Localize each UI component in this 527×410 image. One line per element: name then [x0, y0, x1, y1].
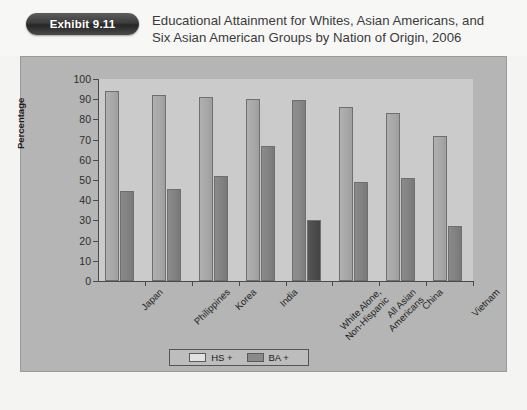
y-axis-tick-label: 70 — [45, 134, 91, 146]
bar-ba — [167, 189, 181, 281]
bar-ba — [354, 182, 368, 281]
y-axis-tick-label: 30 — [45, 214, 91, 226]
x-axis-tick — [145, 281, 146, 286]
x-axis-category-label: All AsianAmericans — [379, 287, 426, 334]
x-axis-labels: JapanPhilippinesKoreaIndiaWhite Alone,No… — [98, 287, 474, 347]
bar-hs — [433, 136, 447, 281]
x-axis-tick — [239, 281, 240, 286]
x-axis-category-label: China — [420, 287, 445, 312]
bar-ba — [307, 220, 321, 281]
legend-label: HS + — [211, 352, 232, 363]
x-axis-category-label-line: Philippines — [192, 287, 232, 327]
bar-ba — [120, 191, 134, 281]
page-title-line-1: Educational Attainment for Whites, Asian… — [152, 12, 522, 29]
legend-item: BA + — [247, 352, 289, 363]
x-axis-category-label-line: Korea — [233, 287, 258, 312]
y-axis-tick — [93, 160, 98, 161]
chart-panel: 1009080706050403020100 Percentage JapanP… — [20, 56, 507, 372]
y-axis-tick-label: 80 — [45, 113, 91, 125]
x-axis-category-label: Vietnam — [470, 287, 502, 319]
page-title: Educational Attainment for Whites, Asian… — [152, 12, 522, 46]
bar-ba — [261, 146, 275, 281]
x-axis-tick — [286, 281, 287, 286]
y-axis-tick — [93, 261, 98, 262]
bar-hs — [386, 113, 400, 281]
y-axis-tick — [93, 200, 98, 201]
x-axis-category-label-line: Vietnam — [470, 287, 502, 319]
x-axis-tick — [473, 281, 474, 286]
exhibit-header: Exhibit 9.11 Educational Attainment for … — [0, 0, 527, 56]
bar-hs — [199, 97, 213, 281]
y-axis-title: Percentage — [15, 98, 26, 149]
legend-item: HS + — [189, 352, 232, 363]
y-axis-tick-label: 40 — [45, 194, 91, 206]
x-axis-category-label: India — [278, 287, 300, 309]
x-axis-tick — [192, 281, 193, 286]
y-axis-tick — [93, 281, 98, 282]
legend-swatch-ba — [247, 353, 264, 362]
y-axis-tick-label: 60 — [45, 154, 91, 166]
bar-hs — [152, 95, 166, 281]
legend-label: BA + — [269, 352, 289, 363]
y-axis-tick — [93, 140, 98, 141]
bar-hs — [246, 99, 260, 281]
y-axis-tick-label: 0 — [45, 275, 91, 287]
y-axis-tick-label: 90 — [45, 93, 91, 105]
y-axis-tick — [93, 99, 98, 100]
exhibit-badge-label: Exhibit 9.11 — [50, 18, 116, 30]
x-axis-category-label: Korea — [233, 287, 258, 312]
x-axis-tick — [379, 281, 380, 286]
y-axis-tick-label: 10 — [45, 255, 91, 267]
bar-ba — [401, 178, 415, 281]
bar-ba — [448, 226, 462, 281]
x-axis-tick — [426, 281, 427, 286]
x-axis-category-label-line: Japan — [139, 287, 165, 313]
y-axis-line — [98, 79, 99, 282]
exhibit-badge: Exhibit 9.11 — [26, 13, 139, 35]
bar-ba — [214, 176, 228, 281]
chart-legend: HS +BA + — [169, 349, 309, 366]
x-axis-category-label-line: China — [420, 287, 445, 312]
x-axis-category-label-line: India — [278, 287, 300, 309]
x-axis-category-label: Philippines — [192, 287, 232, 327]
page-title-line-2: Six Asian American Groups by Nation of O… — [152, 29, 522, 46]
y-axis-tick — [93, 119, 98, 120]
bar-hs — [105, 91, 119, 281]
x-axis-tick — [332, 281, 333, 286]
legend-swatch-hs — [189, 353, 206, 362]
y-axis-tick — [93, 220, 98, 221]
y-axis-tick-label: 50 — [45, 174, 91, 186]
bar-hs — [339, 107, 353, 281]
x-axis-category-label: Japan — [139, 287, 165, 313]
y-axis-tick-label: 100 — [45, 73, 91, 85]
y-axis-tick-label: 20 — [45, 235, 91, 247]
y-axis-tick — [93, 79, 98, 80]
y-axis-tick — [93, 241, 98, 242]
y-axis-labels: 1009080706050403020100 — [35, 79, 91, 282]
y-axis-tick — [93, 180, 98, 181]
bar-hs — [292, 100, 306, 281]
